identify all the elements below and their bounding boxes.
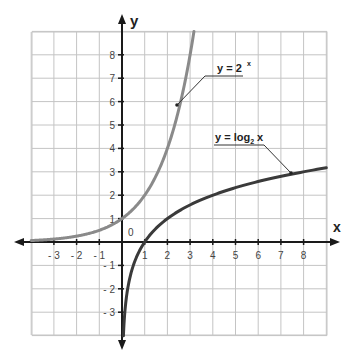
x-tick-label: 7 bbox=[278, 250, 284, 261]
exp-label-superscript: x bbox=[247, 60, 251, 67]
y-tick-label: 6 bbox=[109, 97, 115, 108]
x-tick-label: - 2 bbox=[71, 250, 83, 261]
x-tick-label: - 1 bbox=[93, 250, 105, 261]
x-tick-label: 4 bbox=[210, 250, 216, 261]
x-tick-label: - 3 bbox=[48, 250, 60, 261]
y-axis-label: y bbox=[130, 12, 139, 29]
axes: yx0 bbox=[14, 12, 341, 350]
x-tick-label: 8 bbox=[301, 250, 307, 261]
y-tick-label: - 3 bbox=[103, 307, 115, 318]
grid bbox=[31, 31, 327, 335]
log-curve bbox=[123, 168, 326, 336]
x-tick-label: 6 bbox=[255, 250, 261, 261]
y-tick-label: 8 bbox=[109, 50, 115, 61]
y-tick-label: 4 bbox=[109, 143, 115, 154]
function-graph: yx0 - 3- 2- 112345678- 3- 2- 112345678 y… bbox=[0, 0, 351, 364]
y-tick-label: 3 bbox=[109, 167, 115, 178]
y-tick-label: - 2 bbox=[103, 284, 115, 295]
x-axis-label: x bbox=[333, 219, 341, 235]
exp-curve bbox=[31, 31, 194, 240]
x-tick-label: 2 bbox=[165, 250, 171, 261]
y-tick-label: - 1 bbox=[103, 260, 115, 271]
curves bbox=[31, 31, 326, 335]
y-tick-label: 2 bbox=[109, 190, 115, 201]
exp-label: y = 2 bbox=[217, 62, 242, 74]
x-tick-label: 5 bbox=[233, 250, 239, 261]
log-label: y = log2 x bbox=[215, 131, 264, 145]
y-tick-label: 7 bbox=[109, 73, 115, 84]
x-tick-label: 1 bbox=[142, 250, 148, 261]
y-tick-label: 5 bbox=[109, 120, 115, 131]
tick-labels: - 3- 2- 112345678- 3- 2- 112345678 bbox=[48, 50, 307, 318]
x-tick-label: 3 bbox=[187, 250, 193, 261]
origin-label: 0 bbox=[128, 227, 134, 238]
curve-labels: y = 2xy = log2 x bbox=[175, 60, 293, 175]
